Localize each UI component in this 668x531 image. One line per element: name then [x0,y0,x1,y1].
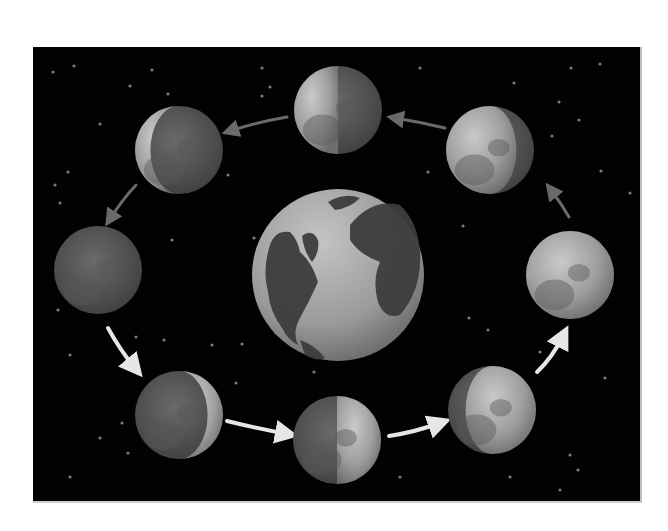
arrow-waxing-gibbous-to-full [537,336,563,372]
star [166,92,169,95]
star [234,381,237,384]
star [568,453,571,456]
arrow-waxing-crescent-to-first-quarter [227,421,287,434]
star [252,236,255,239]
star [418,66,421,69]
star [170,238,173,241]
arrow-waning-crescent-to-new [110,185,136,219]
star [68,475,71,478]
star [550,134,553,137]
star [72,64,75,67]
star [557,100,560,103]
star [68,353,71,356]
arrow-new-to-waxing-crescent [108,328,135,368]
star [312,370,315,373]
star [56,308,59,311]
star [98,436,101,439]
star [260,66,263,69]
star [260,94,263,97]
earth [252,189,424,361]
star [426,170,429,173]
arrow-third-quarter-to-waning-crescent [230,117,287,131]
star [598,62,601,65]
star [53,183,56,186]
star [58,201,61,204]
star [461,224,464,227]
star [599,169,602,172]
star [558,488,561,491]
moon-new-moon: New moon [54,226,142,314]
moon-waxing-gibbous: Waxing gibbous [448,366,536,454]
star [240,342,243,345]
star [398,475,401,478]
star [576,468,579,471]
star [603,376,606,379]
star [467,316,470,319]
star [508,475,511,478]
star [51,70,54,73]
star [126,451,129,454]
star [628,191,631,194]
star [512,81,515,84]
arrow-waning-gibbous-to-third-quarter [395,118,445,128]
star [134,335,137,338]
moon-first-quarter: First quarter [293,396,381,484]
star [577,118,580,121]
moon-waning-gibbous: Waning gibbous [446,106,534,194]
star [210,343,213,346]
moon-full-moon: Full moon [526,231,614,319]
arrow-first-quarter-to-waxing-gibbous [389,423,440,436]
star [268,85,271,88]
star [569,66,572,69]
moon-phase-diagram: New moonWaxing crescentFirst quarterWaxi… [0,0,668,531]
star [538,350,541,353]
moon-waning-crescent: Waning crescent [135,106,223,194]
star [486,328,489,331]
star [98,122,101,125]
moon-waxing-crescent: Waxing crescent [135,371,223,459]
star [226,173,229,176]
arrow-full-to-waning-gibbous [551,190,569,217]
star [128,84,131,87]
star [120,421,123,424]
star [66,170,69,173]
star [150,68,153,71]
star [162,338,165,341]
moon-third-quarter: Third quarter [294,66,382,154]
